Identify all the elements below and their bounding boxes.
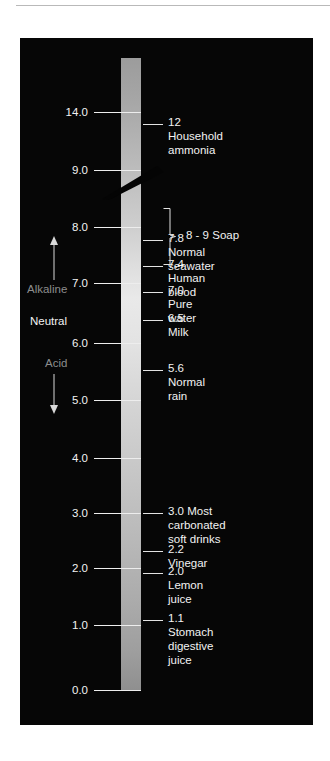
axis-tick-label: 3.0 [72,505,88,521]
neutral-label: Neutral [30,314,67,328]
callout-leader-line [143,370,163,371]
axis-tick-label: 1.0 [72,617,88,633]
callout-leader-line [143,620,163,621]
axis-tick-line [94,112,141,113]
top-divider-rule [16,5,330,6]
callout-label: 2.0 Lemon juice [168,564,203,606]
alkaline-label: Alkaline [27,282,67,296]
axis-tick-label: 7.0 [72,275,88,291]
callout-label: 12 Household ammonia [168,115,223,157]
callout-leader-line [143,124,163,125]
axis-tick-line [94,400,141,401]
axis-tick-label: 2.0 [72,560,88,576]
ph-scale-figure: 14.09.08.07.06.05.04.03.02.01.00.0 12 Ho… [20,38,313,725]
axis-tick-line [94,343,141,344]
callout-leader-line [143,240,163,241]
callout-label: 5.6 Normal rain [168,361,205,403]
axis-tick-line [94,170,141,171]
soap-range-brace [163,208,176,265]
acid-label: Acid [45,356,67,370]
axis-tick-label: 9.0 [72,162,88,178]
callout-leader-line [143,551,163,552]
callout-leader-line [143,513,163,514]
axis-tick-line [94,283,141,284]
axis-tick-label: 8.0 [72,219,88,235]
callout-leader-line [143,573,163,574]
axis-tick-label: 6.0 [72,335,88,351]
axis-tick-line [94,625,141,626]
callout-leader-line [143,266,163,267]
axis-tick-label: 5.0 [72,392,88,408]
ph-gradient-bar [121,58,141,690]
axis-tick-label: 4.0 [72,450,88,466]
callout-leader-line [143,320,163,321]
axis-tick-line [94,568,141,569]
alkaline-up-arrow [47,236,61,280]
axis-tick-line [94,690,141,691]
callout-leader-line [143,292,163,293]
axis-tick-line [94,513,141,514]
callout-label: 3.0 Most carbonated soft drinks [168,504,226,546]
soap-range-label: 8 - 9 Soap [186,228,239,242]
axis-tick-label: 0.0 [72,682,88,698]
axis-tick-line [94,227,141,228]
callout-label: 1.1 Stomach digestive juice [168,611,213,667]
acid-down-arrow [47,374,61,414]
axis-tick-label: 14.0 [66,104,88,120]
axis-tick-line [94,458,141,459]
callout-label: 6.5 Milk [168,311,188,339]
